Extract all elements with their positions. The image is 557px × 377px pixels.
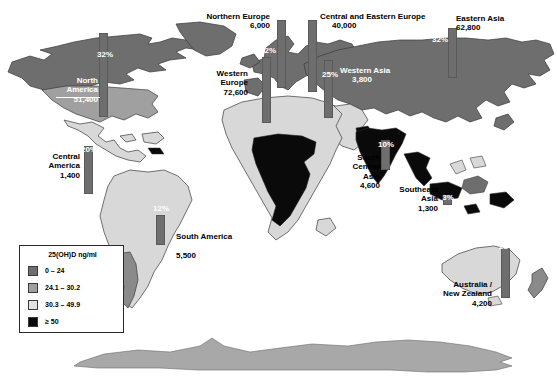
legend-swatch-0-24: [28, 266, 38, 276]
label-southeast-asia: Southeast Asia 1,300: [386, 185, 438, 213]
label-eastern-asia-value: 62,800: [456, 23, 518, 32]
legend-label-50-plus: ≥ 50: [45, 318, 59, 325]
label-western-asia: Western Asia 3,800: [340, 66, 406, 85]
landmass-antarctica: [60, 336, 530, 376]
pct-south-america: 12%: [149, 204, 173, 213]
pct-southeast-asia: 3%: [437, 193, 459, 202]
bar-central-eastern-europe: [308, 20, 317, 92]
world-map-figure: 32% 20% 12% 32% 32% 32% 32% 25% 10% 3% 2…: [0, 0, 557, 377]
label-northern-europe-value: 6,000: [184, 21, 270, 30]
bar-australia-new-zealand: [501, 248, 510, 298]
label-eastern-asia-line1: Eastern Asia: [456, 14, 518, 23]
pct-australia-new-zealand: 28%: [495, 242, 519, 251]
label-southeast-asia-line2: Asia: [386, 194, 438, 203]
label-australia-new-zealand-line1: Australia /: [420, 280, 492, 289]
pct-northern-europe: 32%: [271, 10, 295, 19]
label-central-america-line2: America: [22, 161, 80, 170]
label-western-europe: Western Europe 72,600: [186, 69, 248, 97]
label-south-america-value: 5,500: [176, 251, 252, 260]
pct-western-europe: 32%: [256, 46, 280, 55]
legend-title: 25(OH)D ng/ml: [20, 251, 125, 258]
leader-north-america: [56, 97, 100, 98]
bar-western-asia: [324, 60, 333, 118]
label-western-asia-value: 3,800: [352, 75, 406, 84]
label-north-america-line2: America: [50, 85, 98, 94]
legend-swatch-30-49: [28, 300, 38, 310]
label-central-eastern-europe-line1: Central and Eastern Europe: [320, 12, 444, 21]
label-north-america-line1: North: [50, 76, 98, 85]
pct-north-america: 32%: [94, 50, 116, 59]
label-north-america: North America 51,400: [50, 76, 98, 104]
bar-north-america: [99, 33, 108, 117]
legend-label-0-24: 0 – 24: [45, 267, 64, 274]
legend-swatch-24-30: [28, 283, 38, 293]
pct-western-asia: 25%: [318, 70, 342, 79]
label-south-central-asia: South Central Asia 4,600: [336, 153, 380, 191]
pct-central-america: 20%: [77, 145, 101, 154]
legend-label-30-49: 30.3 – 49.9: [45, 301, 80, 308]
legend-swatch-50-plus: [28, 317, 38, 327]
label-central-america-value: 1,400: [22, 171, 80, 180]
label-western-europe-line2: Europe: [186, 78, 248, 87]
label-central-eastern-europe-value: 40,000: [332, 21, 444, 30]
label-northern-europe-line1: Northern Europe: [184, 12, 270, 21]
label-southeast-asia-line1: Southeast: [386, 185, 438, 194]
label-western-europe-line1: Western: [186, 69, 248, 78]
label-australia-new-zealand-value: 4,200: [420, 299, 492, 308]
bar-western-europe: [262, 57, 271, 123]
label-south-america: South America 5,500: [176, 232, 252, 261]
label-australia-new-zealand-line2: New Zealand: [420, 289, 492, 298]
label-south-central-asia-line2: Central: [336, 162, 380, 171]
label-south-central-asia-value: 4,600: [336, 181, 380, 190]
bar-south-america: [156, 215, 165, 245]
pct-south-central-asia: 10%: [373, 140, 399, 149]
legend-label-24-30: 24.1 – 30.2: [45, 284, 80, 291]
label-central-america: Central America 1,400: [22, 152, 80, 180]
label-south-central-asia-line3: Asia: [336, 172, 380, 181]
label-northern-europe: Northern Europe 6,000: [184, 12, 270, 31]
pct-eastern-asia: 32%: [428, 35, 452, 44]
label-south-central-asia-line1: South: [336, 153, 380, 162]
label-southeast-asia-value: 1,300: [386, 204, 438, 213]
label-central-eastern-europe: Central and Eastern Europe 40,000: [320, 12, 444, 31]
legend: 25(OH)D ng/ml 0 – 24 24.1 – 30.2 30.3 – …: [19, 245, 124, 333]
label-eastern-asia: Eastern Asia 62,800: [456, 14, 518, 33]
label-western-asia-line1: Western Asia: [340, 66, 406, 75]
label-australia-new-zealand: Australia / New Zealand 4,200: [420, 280, 492, 308]
label-western-europe-value: 72,600: [186, 88, 248, 97]
label-central-america-line1: Central: [22, 152, 80, 161]
label-south-america-line1: South America: [176, 232, 252, 241]
